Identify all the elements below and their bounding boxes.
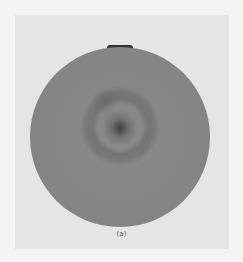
figure-caption: (a) bbox=[0, 230, 243, 238]
circular-disk-image bbox=[30, 47, 210, 227]
